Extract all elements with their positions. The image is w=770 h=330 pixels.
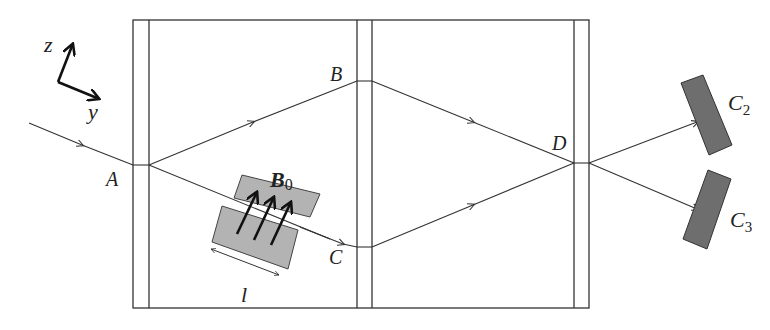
apparatus-frame — [133, 20, 589, 308]
interferometer-diagram: z y B0 l A — [0, 0, 770, 330]
beam-paths — [29, 81, 697, 247]
field-label: B0 — [269, 167, 293, 193]
point-B-label: B — [330, 63, 342, 85]
point-C-label: C — [329, 246, 343, 268]
point-A-label: A — [104, 168, 119, 190]
detector-C3-label: C3 — [730, 207, 752, 235]
z-axis-label: z — [43, 32, 53, 57]
detector-C2: C2 — [681, 75, 750, 155]
magnet-region: B0 l — [211, 167, 320, 307]
point-D-label: D — [551, 132, 567, 154]
axis-indicator: z y — [43, 32, 98, 124]
length-label: l — [241, 282, 247, 307]
y-axis-label: y — [86, 99, 98, 124]
detector-C3: C3 — [683, 170, 752, 249]
detector-C2-label: C2 — [728, 90, 750, 118]
